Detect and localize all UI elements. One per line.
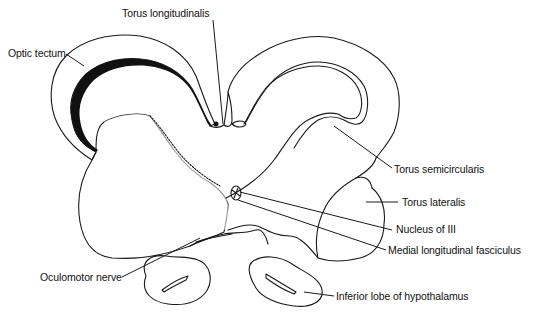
label-torus-lateralis: Torus lateralis: [402, 196, 465, 208]
right-tegmentum: [226, 118, 385, 261]
label-oculomotor-nerve: Oculomotor nerve: [40, 271, 122, 283]
label-torus-longitudinalis: Torus longitudinalis: [122, 7, 209, 19]
label-nucleus-of-iii: Nucleus of III: [396, 223, 456, 235]
left-inferior-lobe: [144, 256, 210, 305]
right-optic-tectum: [228, 36, 399, 158]
label-inferior-lobe-of-hypothalamus: Inferior lobe of hypothalamus: [336, 290, 469, 302]
midbrain-section-diagram: Torus longitudinalis Optic tectum Torus …: [0, 0, 534, 319]
label-optic-tectum: Optic tectum: [8, 47, 66, 59]
torus-longitudinalis: [214, 92, 247, 127]
left-tegmentum: [79, 114, 228, 258]
nucleus-of-iii: [231, 186, 241, 200]
label-torus-semicircularis: Torus semicircularis: [394, 163, 484, 175]
label-medial-longitudinal-fasciculus: Medial longitudinal fasciculus: [388, 244, 521, 256]
right-inferior-lobe: [249, 257, 322, 306]
